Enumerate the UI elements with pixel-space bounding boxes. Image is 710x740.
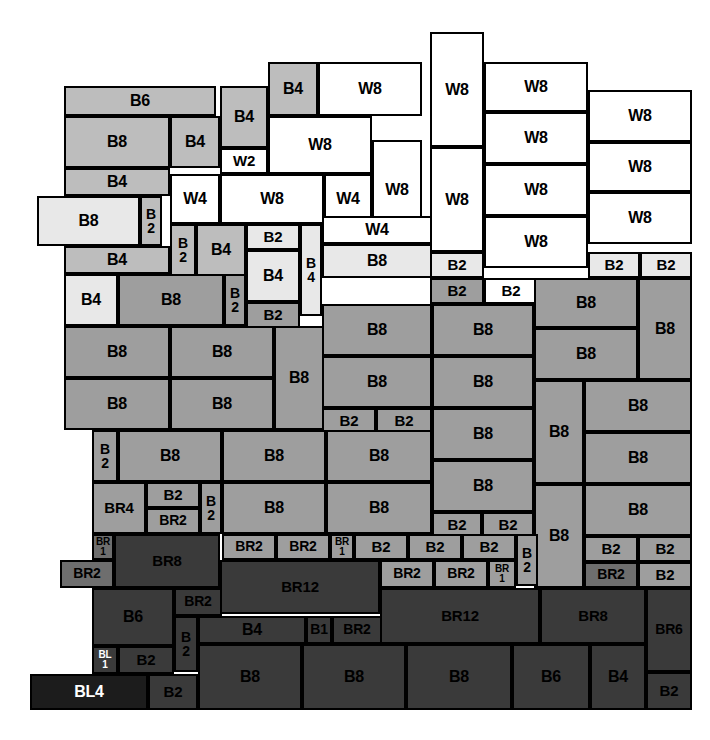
wall-unit-b2: B 2: [174, 616, 198, 672]
wall-unit-b8: B8: [64, 326, 170, 378]
wall-unit-b8: B8: [584, 380, 692, 432]
wall-unit-b2: B2: [484, 278, 538, 304]
wall-unit-w8: W8: [484, 62, 588, 112]
wall-unit-b6: B6: [92, 588, 174, 646]
wall-unit-b2: B2: [246, 302, 300, 328]
wall-unit-b2: B2: [640, 252, 692, 278]
wall-unit-b8: B8: [534, 278, 638, 328]
wall-unit-b8: B8: [322, 244, 432, 278]
wall-unit-br2: BR2: [380, 560, 434, 588]
wall-unit-b2: B2: [638, 562, 692, 588]
wall-unit-b4: B4: [170, 116, 220, 168]
wall-unit-br12: BR12: [220, 560, 380, 614]
wall-unit-br8: BR8: [540, 588, 646, 644]
wall-unit-b8: B8: [170, 326, 274, 378]
wall-unit-w8: W8: [484, 112, 588, 164]
wall-unit-b2: B2: [638, 536, 692, 562]
wall-unit-br1: BR 1: [330, 534, 354, 560]
wall-unit-b2: B 2: [224, 274, 246, 326]
wall-unit-b8: B8: [222, 430, 326, 482]
wall-unit-b8: B8: [326, 430, 432, 482]
wall-unit-b8: B8: [584, 484, 692, 536]
wall-unit-b4: B4: [268, 62, 318, 116]
wall-unit-b2: B2: [146, 482, 200, 508]
wall-unit-w8: W8: [484, 164, 588, 216]
wall-unit-b2: B 2: [92, 430, 118, 482]
wall-unit-b8: B8: [638, 278, 692, 380]
wall-unit-b8: B8: [302, 644, 406, 710]
wall-unit-b4: B4: [220, 86, 268, 148]
wall-unit-br2: BR2: [146, 508, 200, 534]
wall-unit-b8: B8: [170, 378, 274, 430]
wall-unit-b8: B8: [432, 356, 534, 408]
wall-unit-b8: B8: [37, 196, 140, 246]
wall-unit-b2: B2: [646, 672, 692, 710]
wall-unit-b2: B2: [118, 646, 174, 674]
wall-unit-b8: B8: [584, 432, 692, 484]
wall-unit-w8: W8: [430, 147, 484, 252]
wall-unit-b4: B4: [64, 274, 118, 326]
wall-unit-b2: B2: [462, 534, 516, 560]
wall-unit-b2: B2: [588, 252, 640, 278]
wall-unit-br2: BR2: [60, 560, 114, 588]
wall-unit-b8: B8: [534, 328, 638, 380]
wall-unit-w2: W2: [220, 148, 268, 174]
wall-unit-b4: B4: [246, 250, 300, 302]
masonry-wall-diagram: B6B8B4B4B8B 2B4B4W2B4W8W8W8W4W8W4B 2B4B2…: [0, 0, 710, 740]
wall-unit-br1: BR 1: [488, 560, 516, 588]
wall-unit-w8: W8: [588, 142, 692, 192]
wall-unit-w4: W4: [322, 216, 432, 244]
wall-unit-br8: BR8: [114, 534, 220, 588]
wall-unit-w8: W8: [430, 32, 484, 147]
wall-unit-b8: B8: [432, 460, 534, 512]
wall-unit-b2: B2: [584, 536, 638, 562]
wall-unit-b4: B 4: [300, 224, 322, 316]
wall-unit-w8: W8: [484, 216, 588, 268]
wall-unit-b8: B8: [432, 408, 534, 460]
wall-unit-b8: B8: [534, 380, 584, 484]
wall-unit-br6: BR6: [646, 588, 692, 672]
wall-unit-br2: BR2: [434, 560, 488, 588]
wall-unit-b2: B 2: [170, 224, 196, 276]
wall-unit-b8: B8: [274, 326, 324, 430]
wall-unit-bl1: BL 1: [92, 646, 118, 674]
wall-unit-b8: B8: [322, 304, 432, 356]
wall-unit-w4: W4: [170, 174, 220, 224]
wall-unit-w8: W8: [268, 116, 372, 174]
wall-unit-br2: BR2: [174, 588, 222, 616]
wall-unit-br4: BR4: [92, 482, 146, 534]
wall-unit-b2: B2: [430, 252, 484, 278]
wall-unit-b4: B4: [64, 168, 170, 196]
wall-unit-b8: B8: [118, 274, 224, 326]
wall-unit-b8: B8: [322, 356, 432, 408]
wall-unit-bl4: BL4: [30, 674, 148, 710]
wall-unit-w8: W8: [318, 62, 422, 116]
wall-unit-b2: B2: [246, 224, 300, 250]
wall-unit-b8: B8: [64, 378, 170, 430]
wall-unit-b2: B 2: [516, 534, 538, 586]
wall-unit-br2: BR2: [332, 616, 382, 644]
wall-unit-br12: BR12: [380, 588, 540, 644]
wall-unit-b8: B8: [534, 484, 584, 588]
wall-unit-b8: B8: [198, 644, 302, 710]
wall-unit-b8: B8: [118, 430, 222, 482]
wall-unit-b8: B8: [326, 482, 432, 534]
wall-unit-b2: B 2: [140, 196, 162, 246]
wall-unit-w8: W8: [220, 174, 324, 224]
wall-unit-b2: B2: [354, 534, 408, 560]
wall-unit-b8: B8: [406, 644, 512, 710]
wall-unit-b1: B1: [306, 616, 332, 644]
wall-unit-b2: B2: [430, 278, 484, 304]
wall-unit-b6: B6: [64, 86, 216, 116]
wall-unit-b4: B4: [64, 246, 170, 274]
wall-unit-b4: B4: [196, 224, 246, 276]
wall-unit-b2: B2: [148, 674, 198, 710]
wall-unit-b8: B8: [222, 482, 326, 534]
wall-unit-w8: W8: [588, 90, 692, 142]
wall-unit-b4: B4: [590, 644, 646, 710]
wall-unit-br2: BR2: [584, 562, 638, 588]
wall-unit-br1: BR 1: [92, 534, 114, 560]
wall-unit-b4: B4: [198, 616, 306, 644]
wall-unit-b8: B8: [432, 304, 534, 356]
wall-unit-b2: B 2: [200, 482, 222, 534]
